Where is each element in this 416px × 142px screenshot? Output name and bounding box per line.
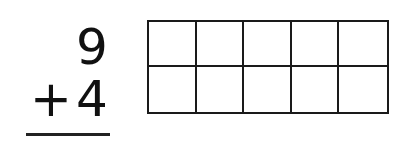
- ten-frame-cell[interactable]: [292, 22, 340, 67]
- ten-frame-cell[interactable]: [339, 67, 387, 112]
- bottom-addend: 4: [76, 74, 108, 124]
- ten-frame-cell[interactable]: [149, 22, 197, 67]
- ten-frame-cell[interactable]: [197, 67, 245, 112]
- answer-line: [26, 133, 110, 136]
- top-addend: 9: [76, 22, 108, 72]
- addition-problem: 9 + 4: [0, 0, 140, 142]
- ten-frame-cell[interactable]: [149, 67, 197, 112]
- ten-frame-cell[interactable]: [244, 22, 292, 67]
- plus-operator: +: [30, 74, 72, 124]
- ten-frame-cell[interactable]: [292, 67, 340, 112]
- ten-frame-cell[interactable]: [244, 67, 292, 112]
- ten-frame-cell[interactable]: [339, 22, 387, 67]
- ten-frame: [147, 20, 389, 114]
- ten-frame-cell[interactable]: [197, 22, 245, 67]
